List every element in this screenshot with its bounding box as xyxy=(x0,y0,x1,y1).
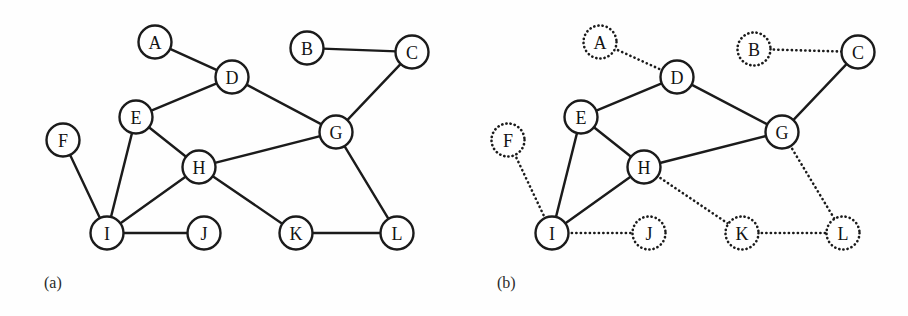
edge-b-c xyxy=(769,49,842,51)
edge-a-d xyxy=(614,48,663,70)
node-label-f: F xyxy=(503,131,513,151)
node-label-f: F xyxy=(58,131,68,151)
node-e[interactable]: E xyxy=(565,101,598,134)
edges-layer xyxy=(70,48,848,233)
edge-e-h xyxy=(148,127,187,158)
edge-a-d xyxy=(169,48,218,70)
node-d[interactable]: D xyxy=(661,61,694,94)
figure-root: ABCDEFGHIJKLABCDEFGHIJKL (a) (b) xyxy=(0,0,908,316)
edge-h-k xyxy=(212,176,284,225)
node-a[interactable]: A xyxy=(584,26,617,59)
panel-b-caption: (b) xyxy=(497,274,516,292)
edge-b-c xyxy=(322,49,396,52)
node-g[interactable]: G xyxy=(766,116,799,149)
node-label-l: L xyxy=(392,224,403,244)
node-i[interactable]: I xyxy=(91,217,124,250)
node-label-a: A xyxy=(149,33,162,53)
node-k[interactable]: K xyxy=(726,217,759,250)
node-label-k: K xyxy=(736,224,749,244)
node-label-c: C xyxy=(406,43,418,63)
node-l[interactable]: L xyxy=(381,217,414,250)
graph-canvas: ABCDEFGHIJKLABCDEFGHIJKL xyxy=(0,0,908,316)
node-label-k: K xyxy=(290,224,303,244)
node-c[interactable]: C xyxy=(842,36,875,69)
edge-g-h xyxy=(214,136,321,163)
node-label-h: H xyxy=(193,158,206,178)
node-d[interactable]: D xyxy=(216,61,249,94)
node-c[interactable]: C xyxy=(396,36,429,69)
node-i[interactable]: I xyxy=(536,217,569,250)
node-l[interactable]: L xyxy=(827,217,860,250)
node-label-e: E xyxy=(131,108,142,128)
node-label-b: B xyxy=(301,39,313,59)
edge-e-i xyxy=(556,132,578,218)
node-label-j: J xyxy=(200,224,207,244)
node-label-j: J xyxy=(645,224,652,244)
edge-g-h xyxy=(659,136,767,163)
edge-d-e xyxy=(150,83,218,111)
node-label-d: D xyxy=(226,68,239,88)
node-label-l: L xyxy=(838,224,849,244)
edge-h-k xyxy=(657,176,730,225)
node-label-d: D xyxy=(671,68,684,88)
edge-e-i xyxy=(111,132,133,218)
nodes-layer: ABCDEFGHIJKLABCDEFGHIJKL xyxy=(47,26,875,250)
node-b[interactable]: B xyxy=(738,33,771,66)
node-k[interactable]: K xyxy=(280,217,313,250)
node-e[interactable]: E xyxy=(120,101,153,134)
node-label-g: G xyxy=(330,123,343,143)
node-label-b: B xyxy=(748,40,760,60)
edge-e-h xyxy=(593,127,632,158)
node-j[interactable]: J xyxy=(188,217,221,250)
edge-h-i xyxy=(564,176,631,224)
node-label-i: I xyxy=(104,224,110,244)
edge-h-i xyxy=(119,176,186,224)
edge-g-l xyxy=(344,145,389,220)
node-label-e: E xyxy=(576,108,587,128)
edge-c-g xyxy=(347,63,402,121)
node-h[interactable]: H xyxy=(628,151,661,184)
node-h[interactable]: H xyxy=(183,151,216,184)
node-a[interactable]: A xyxy=(139,26,172,59)
node-g[interactable]: G xyxy=(320,116,353,149)
node-label-h: H xyxy=(638,158,651,178)
node-f[interactable]: F xyxy=(492,124,525,157)
edge-f-i xyxy=(70,154,101,219)
edge-d-e xyxy=(595,83,663,111)
edge-c-g xyxy=(793,63,848,121)
edge-d-g xyxy=(691,84,769,125)
node-label-i: I xyxy=(549,224,555,244)
node-j[interactable]: J xyxy=(633,217,666,250)
node-b[interactable]: B xyxy=(291,32,324,65)
node-label-a: A xyxy=(594,33,607,53)
edge-g-l xyxy=(790,145,835,220)
panel-a-caption: (a) xyxy=(44,274,62,292)
node-label-g: G xyxy=(776,123,789,143)
node-label-c: C xyxy=(852,43,864,63)
edge-f-i xyxy=(515,154,546,219)
edge-d-g xyxy=(246,84,323,125)
node-f[interactable]: F xyxy=(47,124,80,157)
